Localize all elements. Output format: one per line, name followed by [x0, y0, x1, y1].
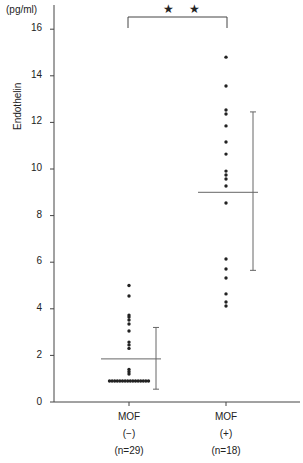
data-point: [224, 257, 227, 260]
x-category-mof-positive: MOF (+) (n=18): [196, 408, 256, 459]
category-label: MOF: [99, 408, 159, 425]
data-point: [147, 379, 150, 382]
mean-sd-bars: [101, 112, 258, 389]
data-point: [224, 300, 227, 303]
category-label: MOF: [196, 408, 256, 425]
data-point: [224, 84, 227, 87]
data-point: [224, 124, 227, 127]
category-n: (n=18): [196, 442, 256, 459]
data-point: [224, 173, 227, 176]
category-sign: (+): [196, 425, 256, 442]
data-point: [224, 55, 227, 58]
data-point: [127, 315, 130, 318]
data-point: [127, 343, 130, 346]
data-point: [224, 108, 227, 111]
data-point: [127, 347, 130, 350]
data-point: [224, 152, 227, 155]
data-point: [224, 112, 227, 115]
data-point: [224, 201, 227, 204]
category-n: (n=29): [99, 442, 159, 459]
data-point: [224, 177, 227, 180]
data-point: [224, 140, 227, 143]
significance-bracket: [128, 17, 227, 28]
data-point: [224, 304, 227, 307]
data-point: [127, 294, 130, 297]
data-point: [224, 276, 227, 279]
x-category-mof-negative: MOF (−) (n=29): [99, 408, 159, 459]
data-points: [108, 55, 228, 382]
data-point: [224, 184, 227, 187]
data-point: [127, 372, 130, 375]
data-point: [224, 292, 227, 295]
category-sign: (−): [99, 425, 159, 442]
data-point: [127, 322, 130, 325]
data-point: [224, 267, 227, 270]
data-point: [127, 318, 130, 321]
data-point: [224, 169, 227, 172]
plot-area: [0, 0, 303, 463]
data-point: [127, 284, 130, 287]
axes: [50, 5, 300, 406]
data-point: [127, 329, 130, 332]
significance-stars: ★ ★: [163, 2, 206, 16]
